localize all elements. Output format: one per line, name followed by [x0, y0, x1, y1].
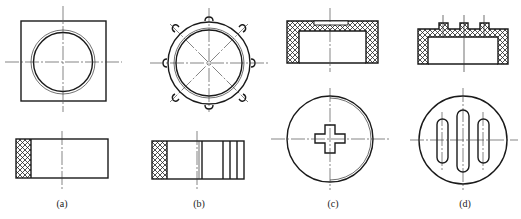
panel-c-top-view — [287, 8, 378, 72]
panel-b-top-view — [150, 8, 268, 112]
label-panel-c: (c) — [327, 198, 338, 209]
panel-d-front-view — [410, 88, 518, 190]
panel-a-top-view — [5, 6, 122, 112]
panel-a-front-view — [16, 131, 108, 190]
technical-drawing — [0, 0, 521, 219]
label-panel-b: (b) — [193, 198, 205, 209]
label-panel-d: (d) — [459, 198, 471, 209]
panel-d-top-view — [418, 15, 508, 72]
panel-b-front-view — [152, 131, 244, 190]
panel-c-front-view — [271, 88, 389, 190]
label-panel-a: (a) — [56, 198, 67, 209]
